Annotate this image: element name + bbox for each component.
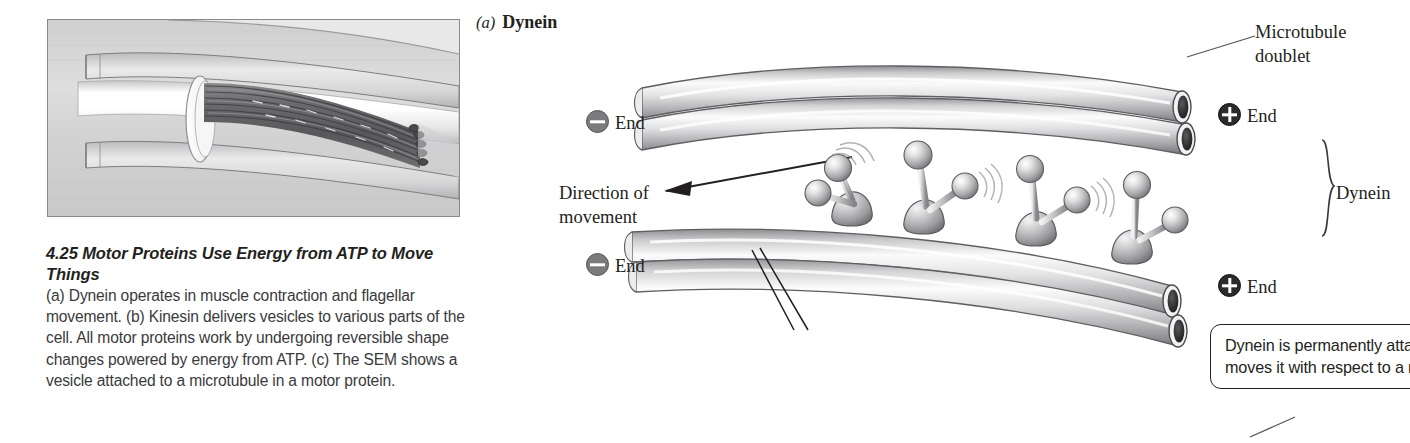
motion-arc-icon (1091, 178, 1114, 217)
figure-caption-title: 4.25 Motor Proteins Use Energy from ATP … (46, 243, 466, 284)
label-plus-end-bottom: End (1218, 274, 1277, 298)
dynein-motor (805, 143, 874, 226)
figure-caption: 4.25 Motor Proteins Use Energy from ATP … (46, 243, 466, 391)
part-label-letter: (a) (476, 13, 495, 32)
curly-brace-icon (1322, 140, 1334, 236)
label-minus-end-bottom: End (586, 253, 645, 277)
part-label-a: (a)Dynein (476, 12, 557, 33)
label-plus-end-top: End (1218, 103, 1277, 127)
label-direction-of-movement: Direction of movement (559, 182, 709, 229)
label-dynein-bracket: Dynein (1336, 183, 1390, 204)
minus-end-top-text: End (615, 113, 645, 133)
leader-line-vesicle (1230, 395, 1410, 443)
minus-end-badge-icon (586, 253, 609, 276)
dynein-motor (904, 141, 1002, 234)
plus-end-bottom-text: End (1247, 277, 1277, 297)
dynein-motor (1112, 172, 1188, 265)
microtubule-doublet-bottom (625, 229, 1188, 347)
leader-line-microtubule-doublet (1187, 36, 1255, 57)
part-label-word: Dynein (502, 12, 557, 32)
plus-end-badge-icon (1218, 103, 1241, 126)
callout-text: Dynein is permanently attached to one mi… (1225, 334, 1410, 378)
label-minus-end-top: End (586, 110, 645, 134)
label-microtubule-doublet: Microtubule doublet (1255, 20, 1385, 68)
plus-end-badge-icon (1218, 274, 1241, 297)
flagellum-illustration (48, 20, 459, 216)
dynein-diagram: (a)Dynein Microtubule doublet End End En… (460, 0, 1410, 443)
dynein-motor (1016, 156, 1114, 247)
minus-end-badge-icon (586, 110, 609, 133)
figure-caption-body: (a) Dynein operates in muscle contractio… (46, 285, 466, 391)
callout-box: Dynein is permanently attached to one mi… (1210, 324, 1410, 389)
minus-end-bottom-text: End (615, 256, 645, 276)
micrograph-panel (47, 19, 460, 217)
motion-arc-icon (979, 164, 1002, 203)
plus-end-top-text: End (1247, 106, 1277, 126)
